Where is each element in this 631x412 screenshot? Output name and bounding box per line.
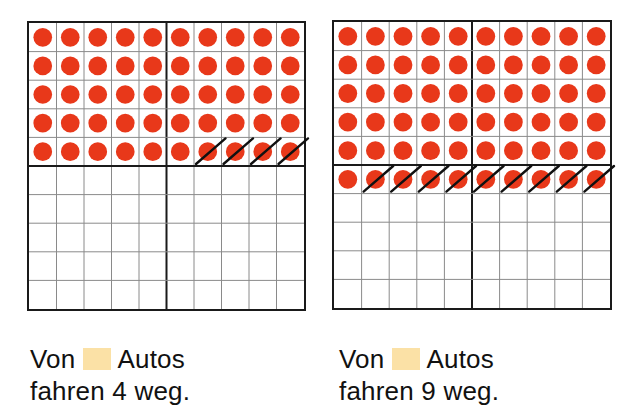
car-dot — [366, 27, 385, 46]
caption-von: Von — [30, 344, 75, 374]
car-dot — [421, 56, 440, 75]
answer-blank-box[interactable] — [83, 348, 111, 370]
car-dot — [88, 85, 107, 104]
car-dot — [116, 85, 135, 104]
ten-by-ten-dot-grid — [332, 20, 612, 310]
car-dot — [226, 114, 245, 133]
car-dot — [366, 141, 385, 160]
car-dot — [88, 114, 107, 133]
car-dot — [504, 141, 523, 160]
exercise-caption: VonAutos fahren 9 weg. — [339, 343, 499, 407]
car-dot — [33, 57, 52, 76]
car-dot — [449, 113, 468, 132]
car-dot — [421, 84, 440, 103]
car-dot — [532, 113, 551, 132]
car-dot — [61, 28, 80, 47]
car-dot — [338, 141, 357, 160]
car-dot — [366, 84, 385, 103]
car-dot — [338, 84, 357, 103]
car-dot — [171, 114, 190, 133]
car-dot — [559, 141, 578, 160]
car-dot — [338, 56, 357, 75]
car-dot — [587, 56, 606, 75]
caption-line-2: fahren 4 weg. — [30, 375, 190, 407]
car-dot — [198, 114, 217, 133]
car-dot — [559, 56, 578, 75]
car-dot — [198, 85, 217, 104]
car-dot — [338, 27, 357, 46]
caption-line-1: VonAutos — [339, 343, 499, 375]
car-dot — [33, 142, 52, 161]
car-dot — [171, 57, 190, 76]
caption-line-2: fahren 9 weg. — [339, 375, 499, 407]
car-dot — [88, 28, 107, 47]
caption-autos: Autos — [117, 344, 185, 374]
car-dot — [33, 28, 52, 47]
grid-drawing — [29, 23, 304, 309]
car-dot — [366, 56, 385, 75]
car-dot — [476, 84, 495, 103]
car-dot — [171, 85, 190, 104]
car-dot — [88, 142, 107, 161]
car-dot — [587, 141, 606, 160]
car-dot — [559, 84, 578, 103]
car-dot — [33, 85, 52, 104]
car-dot — [394, 56, 413, 75]
car-dot — [421, 113, 440, 132]
car-dot — [587, 84, 606, 103]
car-dot — [116, 57, 135, 76]
car-dot — [253, 57, 272, 76]
car-dot — [116, 114, 135, 133]
car-dot — [143, 28, 162, 47]
ten-by-ten-dot-grid — [27, 21, 306, 311]
car-dot — [587, 113, 606, 132]
car-dot — [587, 27, 606, 46]
car-dot — [338, 113, 357, 132]
car-dot — [33, 114, 52, 133]
exercise-caption: VonAutos fahren 4 weg. — [30, 343, 190, 407]
car-dot — [61, 114, 80, 133]
car-dot — [394, 141, 413, 160]
car-dot — [143, 57, 162, 76]
car-dot — [198, 57, 217, 76]
car-dot — [532, 27, 551, 46]
car-dot — [394, 84, 413, 103]
car-dot — [116, 142, 135, 161]
grid-drawing — [334, 22, 610, 308]
car-dot — [61, 142, 80, 161]
car-dot — [226, 57, 245, 76]
answer-blank-box[interactable] — [392, 348, 420, 370]
car-dot — [281, 85, 300, 104]
car-dot — [421, 27, 440, 46]
car-dot — [421, 141, 440, 160]
car-dot — [281, 28, 300, 47]
car-dot — [449, 56, 468, 75]
car-dot — [394, 27, 413, 46]
car-dot — [476, 27, 495, 46]
car-dot — [504, 27, 523, 46]
car-dot — [504, 56, 523, 75]
car-dot — [171, 28, 190, 47]
car-dot — [281, 57, 300, 76]
caption-line-1: VonAutos — [30, 343, 190, 375]
car-dot — [559, 113, 578, 132]
car-dot — [198, 28, 217, 47]
car-dot — [449, 27, 468, 46]
car-dot — [449, 84, 468, 103]
car-dot — [532, 84, 551, 103]
car-dot — [532, 141, 551, 160]
car-dot — [116, 28, 135, 47]
car-dot — [504, 84, 523, 103]
car-dot — [532, 56, 551, 75]
car-dot — [476, 56, 495, 75]
car-dot — [143, 142, 162, 161]
car-dot — [226, 85, 245, 104]
car-dot — [559, 27, 578, 46]
car-dot — [338, 170, 357, 189]
car-dot — [394, 113, 413, 132]
car-dot — [504, 113, 523, 132]
car-dot — [253, 85, 272, 104]
car-dot — [61, 57, 80, 76]
caption-von: Von — [339, 344, 384, 374]
car-dot — [366, 113, 385, 132]
